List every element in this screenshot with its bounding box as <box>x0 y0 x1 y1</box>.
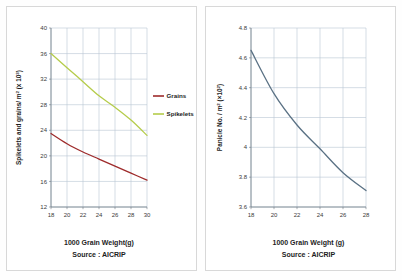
x-axis-ticks: 182022242628 <box>248 207 370 218</box>
y-tick-label: 3.6 <box>239 204 248 210</box>
y-tick-label: 4.4 <box>239 85 248 91</box>
y-axis-ticks: 3.63.844.24.44.64.8 <box>239 25 251 210</box>
x-tick-label: 26 <box>340 212 347 218</box>
chart-panel-panicle-number: 3.63.844.24.44.64.8182022242628Panicle N… <box>205 6 396 271</box>
y-axis-title: Spikelets and grains/ m2 (x 103) <box>15 70 23 165</box>
y-tick-label: 3.8 <box>239 174 248 180</box>
y-tick-label: 20 <box>40 153 47 159</box>
y-tick-label: 16 <box>40 179 47 185</box>
y-tick-label: 12 <box>40 204 47 210</box>
y-tick-label: 4 <box>244 144 248 150</box>
x-axis-ticks: 18202224262830 <box>48 207 151 218</box>
legend: GrainsSpikelets <box>153 92 194 117</box>
panicle-number-plot: 3.63.844.24.44.64.8182022242628Panicle N… <box>206 7 395 270</box>
x-tick-label: 18 <box>248 212 255 218</box>
y-tick-label: 36 <box>40 51 47 57</box>
y-tick-label: 24 <box>40 127 47 133</box>
y-tick-label: 4.6 <box>239 55 248 61</box>
chart-panel-spikelets-grains: 121620242832364018202224262830Spikelets … <box>6 6 197 271</box>
x-tick-label: 22 <box>80 212 87 218</box>
x-tick-label: 20 <box>271 212 278 218</box>
source-caption: Source : AICRIP <box>72 251 126 258</box>
x-tick-label: 18 <box>48 212 55 218</box>
x-tick-label: 24 <box>96 212 103 218</box>
series-group <box>251 50 366 190</box>
legend-label-spikelets: Spikelets <box>167 110 195 117</box>
x-tick-label: 30 <box>144 212 151 218</box>
y-tick-label: 4.8 <box>239 25 248 31</box>
x-tick-label: 22 <box>294 212 301 218</box>
x-tick-label: 28 <box>363 212 370 218</box>
x-axis-title: 1000 Grain Weight (g) <box>273 239 345 247</box>
source-caption: Source : AICRIP <box>282 251 336 258</box>
figure-page: 121620242832364018202224262830Spikelets … <box>0 0 402 280</box>
gridlines <box>51 28 147 207</box>
x-axis-title: 1000 Grain Weight(g) <box>64 239 134 247</box>
x-tick-label: 24 <box>317 212 324 218</box>
y-tick-label: 32 <box>40 76 47 82</box>
x-tick-label: 28 <box>128 212 135 218</box>
y-axis-ticks: 1216202428323640 <box>40 25 51 210</box>
series-line-panicle-no <box>251 50 366 190</box>
y-axis-title: Panicle No. / m2 (×102) <box>216 84 224 151</box>
gridlines <box>251 28 366 207</box>
x-tick-label: 26 <box>112 212 119 218</box>
legend-label-grains: Grains <box>167 92 187 99</box>
spikelets-grains-plot: 121620242832364018202224262830Spikelets … <box>7 7 196 270</box>
y-tick-label: 4.2 <box>239 115 248 121</box>
x-tick-label: 20 <box>64 212 71 218</box>
y-tick-label: 40 <box>40 25 47 31</box>
y-tick-label: 28 <box>40 102 47 108</box>
